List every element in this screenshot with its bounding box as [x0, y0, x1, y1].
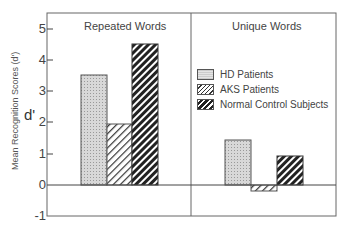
y-axis-label: Mean Recognition Scores (d')	[10, 52, 20, 170]
bar-aks-unique	[251, 185, 277, 191]
legend-label: HD Patients	[220, 69, 273, 80]
y-ticks	[47, 29, 53, 154]
legend-item-hd: HD Patients	[197, 69, 273, 80]
bar-normal-repeated	[132, 44, 158, 185]
chart-canvas	[0, 0, 348, 228]
legend-swatch-dotted	[197, 69, 214, 80]
y-tick-label: 5	[30, 21, 46, 36]
bar-normal-unique	[277, 156, 303, 185]
legend-item-normal: Normal Control Subjects	[197, 99, 328, 110]
legend-swatch-light-hatch	[197, 84, 214, 95]
legend-label: Normal Control Subjects	[220, 99, 328, 110]
y-tick-label: 0	[30, 177, 46, 192]
legend-item-aks: AKS Patients	[197, 84, 279, 95]
y-tick-label: -1	[30, 208, 46, 223]
legend-label: AKS Patients	[220, 84, 279, 95]
bar-hd-repeated	[81, 75, 107, 185]
y-tick-label: 3	[30, 83, 46, 98]
bar-aks-repeated	[107, 124, 132, 185]
y-tick-label: 1	[30, 146, 46, 161]
y-tick-label: 4	[30, 52, 46, 67]
legend-swatch-dark-hatch	[197, 99, 214, 110]
panel-title-repeated: Repeated Words	[84, 20, 166, 32]
panel-title-unique: Unique Words	[232, 20, 302, 32]
bar-hd-unique	[225, 140, 251, 185]
y-axis-short-label: d'	[24, 106, 35, 123]
